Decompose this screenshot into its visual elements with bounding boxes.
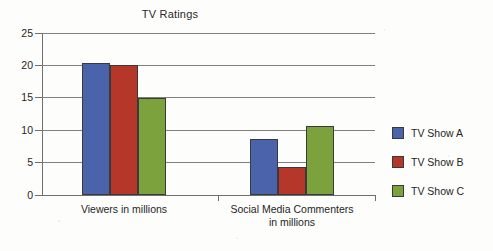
y-axis-tick-label: 0 bbox=[27, 190, 33, 201]
bar-chart: TV Ratings 0510152025 TV Show ATV Show B… bbox=[0, 0, 493, 251]
bar[interactable] bbox=[306, 126, 334, 195]
legend-item-label: TV Show C bbox=[411, 185, 464, 197]
chart-legend: TV Show ATV Show BTV Show C bbox=[392, 126, 464, 213]
gridline-0 bbox=[42, 195, 375, 196]
plot-area: 0510152025 bbox=[42, 33, 375, 195]
legend-item[interactable]: TV Show B bbox=[392, 155, 464, 169]
legend-color-swatch bbox=[392, 156, 404, 168]
legend-item-label: TV Show B bbox=[411, 156, 464, 168]
y-axis-tick-label: 5 bbox=[27, 157, 33, 168]
bar[interactable] bbox=[278, 167, 306, 195]
x-axis-category-label: Viewers in millions bbox=[34, 203, 214, 216]
category-tick-0 bbox=[218, 195, 219, 201]
x-axis-label-line: Social Media Commenters bbox=[202, 203, 382, 216]
legend-item[interactable]: TV Show C bbox=[392, 184, 464, 198]
chart-title: TV Ratings bbox=[0, 8, 340, 20]
bar[interactable] bbox=[250, 139, 278, 195]
legend-item[interactable]: TV Show A bbox=[392, 126, 464, 140]
y-axis-tick-label: 10 bbox=[21, 125, 33, 136]
y-tick-mark-15 bbox=[35, 97, 42, 98]
x-axis-label-line: Viewers in millions bbox=[34, 203, 214, 216]
y-tick-mark-20 bbox=[35, 65, 42, 66]
y-axis-line bbox=[42, 33, 43, 195]
category-tick-1 bbox=[375, 195, 376, 201]
x-axis-label-line: in millions bbox=[202, 216, 382, 229]
bar[interactable] bbox=[82, 63, 110, 195]
y-axis-tick-label: 20 bbox=[21, 60, 33, 71]
y-tick-mark-5 bbox=[35, 162, 42, 163]
gridline-25 bbox=[42, 33, 375, 34]
legend-item-label: TV Show A bbox=[411, 127, 463, 139]
y-tick-mark-25 bbox=[35, 33, 42, 34]
x-axis-category-label: Social Media Commentersin millions bbox=[202, 203, 382, 229]
y-axis-tick-label: 25 bbox=[21, 28, 33, 39]
bar[interactable] bbox=[110, 65, 138, 195]
y-axis-tick-label: 15 bbox=[21, 92, 33, 103]
y-tick-mark-0 bbox=[35, 195, 42, 196]
legend-color-swatch bbox=[392, 185, 404, 197]
y-tick-mark-10 bbox=[35, 130, 42, 131]
legend-color-swatch bbox=[392, 127, 404, 139]
bar[interactable] bbox=[138, 98, 166, 195]
